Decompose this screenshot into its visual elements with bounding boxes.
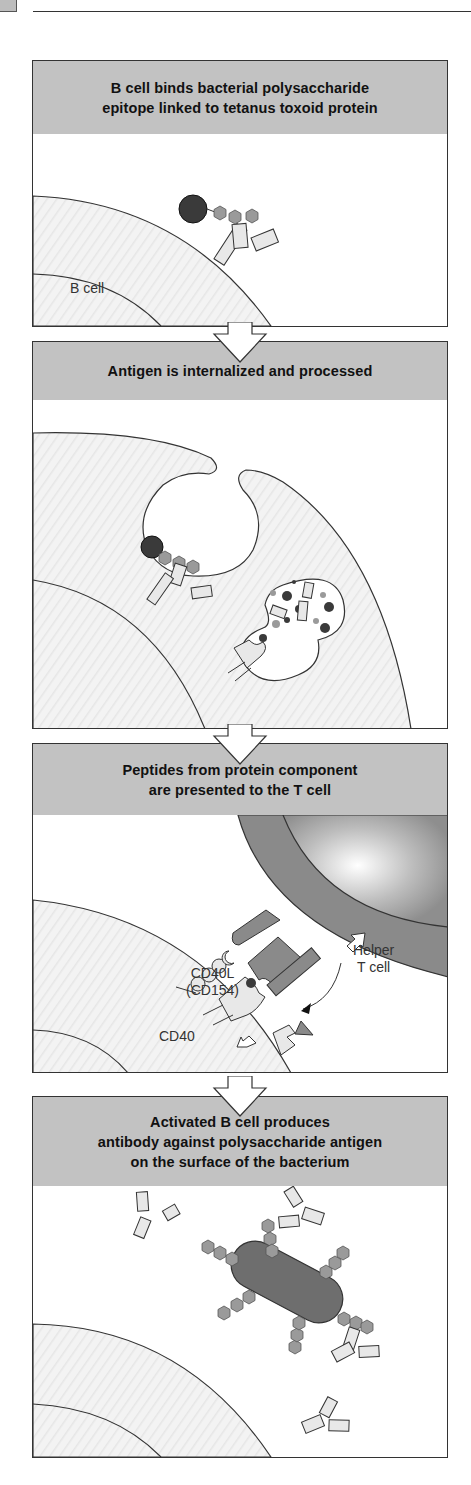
flow-arrow-3-icon [212, 1076, 268, 1118]
b-cell-membrane [33, 433, 411, 729]
antibody-icon [279, 1186, 325, 1228]
b-cell-membrane [33, 1324, 271, 1457]
antibody-icon [134, 1192, 180, 1239]
tetanus-toxoid-icon [179, 195, 207, 223]
antibody-icon [331, 1327, 379, 1362]
cd40l-icon [232, 910, 280, 945]
b-cell-label: B cell [70, 280, 104, 297]
step-1-title: B cell binds bacterial polysaccharide ep… [32, 60, 448, 135]
step-3-title-line-2: are presented to the T cell [122, 780, 357, 800]
cytokines-label: cytokines [307, 1072, 365, 1073]
step-2-title-line-1: Antigen is internalized and processed [108, 361, 373, 381]
peptide-icon [246, 978, 256, 988]
step-1-title-line-1: B cell binds bacterial polysaccharide [102, 78, 377, 98]
step-4-title-line-3: on the surface of the bacterium [98, 1152, 382, 1172]
cytokine-icon [295, 1021, 313, 1035]
cd40-label: CD40 [159, 1028, 195, 1045]
bcr-arm-right-icon [251, 229, 278, 251]
page-corner-tab [0, 0, 17, 12]
antibody-icon [301, 1397, 349, 1434]
step-4-title-line-2: antibody against polysaccharide antigen [98, 1132, 382, 1152]
step-2-illustration [32, 400, 448, 729]
bcr-arm-up-icon [232, 223, 248, 248]
bacterium-icon [223, 1233, 351, 1332]
helper-t-cell-label: Helper T cell [353, 942, 394, 976]
flow-arrow-1-icon [212, 322, 268, 364]
cd40l-label: CD40L (CD154) [186, 965, 239, 999]
step-4-illustration [32, 1186, 448, 1458]
header-rule [33, 11, 471, 12]
step-1-title-line-2: epitope linked to tetanus toxoid protein [102, 98, 377, 118]
step-1-illustration: B cell [32, 134, 448, 327]
flow-arrow-2-icon [212, 724, 268, 766]
cd40-icon [222, 951, 234, 965]
step-3-illustration: Helper T cell CD40L (CD154) CD40 cytokin… [32, 815, 448, 1073]
